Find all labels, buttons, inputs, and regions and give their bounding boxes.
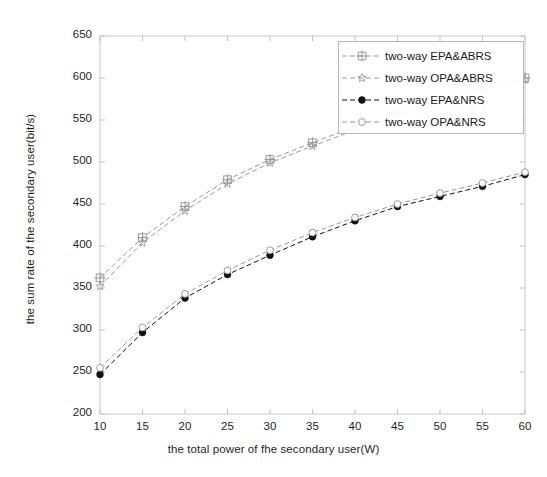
open-circle-icon	[339, 111, 385, 133]
x-tick-label: 55	[463, 420, 503, 432]
y-tick-label: 250	[58, 364, 92, 376]
legend-item: two-way OPA&NRS	[339, 111, 525, 133]
x-tick-label: 30	[250, 420, 290, 432]
y-tick-label: 300	[58, 322, 92, 334]
legend-item: two-way EPA&ABRS	[339, 45, 525, 67]
y-tick-label: 600	[58, 70, 92, 82]
filled-circle-icon	[339, 89, 385, 111]
chart-figure: the sum rate of the secondary user(bit/s…	[0, 0, 547, 477]
x-tick-label: 35	[293, 420, 333, 432]
legend-item: two-way EPA&NRS	[339, 89, 525, 111]
legend-item-label: two-way EPA&NRS	[385, 94, 484, 106]
x-tick-label: 20	[165, 420, 205, 432]
x-tick-label: 40	[335, 420, 375, 432]
y-tick-label: 500	[58, 154, 92, 166]
y-tick-label: 650	[58, 28, 92, 40]
y-tick-label: 450	[58, 196, 92, 208]
y-tick-label: 350	[58, 280, 92, 292]
x-tick-label: 25	[208, 420, 248, 432]
x-tick-label: 60	[505, 420, 545, 432]
legend-item-label: two-way EPA&ABRS	[385, 50, 492, 62]
legend-item-label: two-way OPA&NRS	[385, 116, 486, 128]
series-two-way-epa-nrs	[97, 171, 529, 378]
y-axis-label: the sum rate of the secondary user(bit/s…	[24, 69, 36, 369]
y-tick-label: 200	[58, 406, 92, 418]
legend: two-way EPA&ABRStwo-way OPA&ABRStwo-way …	[338, 41, 524, 134]
y-tick-label: 550	[58, 112, 92, 124]
legend-item-label: two-way OPA&ABRS	[385, 72, 493, 84]
x-tick-label: 15	[123, 420, 163, 432]
plus-in-square-icon	[339, 45, 385, 67]
legend-item: two-way OPA&ABRS	[339, 67, 525, 89]
star-icon	[339, 67, 385, 89]
x-axis-label: the total power of fhe secondary user(W)	[0, 443, 547, 455]
y-tick-label: 400	[58, 238, 92, 250]
x-tick-label: 45	[378, 420, 418, 432]
x-tick-label: 50	[420, 420, 460, 432]
series-two-way-opa-nrs	[97, 169, 529, 372]
x-tick-label: 10	[80, 420, 120, 432]
